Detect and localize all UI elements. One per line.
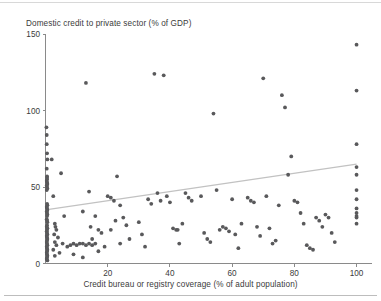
data-point <box>81 210 85 214</box>
data-point <box>355 207 359 211</box>
trend-line <box>46 164 357 210</box>
data-point <box>208 240 212 244</box>
data-point <box>72 252 76 256</box>
data-point <box>333 240 337 244</box>
data-point <box>54 228 58 232</box>
data-point <box>355 216 359 220</box>
data-point <box>89 225 93 229</box>
data-point <box>274 239 278 243</box>
scatter-plot-figure: Domestic credit to private sector (% of … <box>0 0 381 301</box>
y-tick-label: 150 <box>10 30 40 39</box>
data-point <box>218 228 222 232</box>
x-tick-label: 100 <box>350 269 364 278</box>
data-point <box>324 213 328 217</box>
data-point <box>118 242 122 246</box>
data-point <box>100 231 104 235</box>
data-point <box>165 194 169 198</box>
data-point <box>355 197 359 201</box>
data-point <box>96 228 100 232</box>
data-point <box>121 216 125 220</box>
data-point <box>45 133 49 137</box>
x-tick-label: 40 <box>165 269 174 278</box>
data-point <box>124 223 128 227</box>
data-point <box>109 228 113 232</box>
data-point <box>140 233 144 237</box>
data-point <box>236 246 240 250</box>
data-point <box>45 142 49 146</box>
data-point <box>261 76 265 80</box>
data-point <box>149 202 153 206</box>
data-point <box>230 197 234 201</box>
data-point <box>302 222 306 226</box>
data-point <box>296 200 300 204</box>
data-point <box>176 228 180 232</box>
x-tick-label: 20 <box>103 269 112 278</box>
data-point <box>286 173 290 177</box>
data-point <box>152 72 156 76</box>
data-point <box>45 188 49 192</box>
data-point <box>128 237 132 241</box>
data-point <box>62 214 66 218</box>
data-point <box>283 106 287 110</box>
data-point <box>54 243 58 247</box>
data-point <box>115 174 119 178</box>
data-point <box>45 259 49 263</box>
data-point <box>227 229 231 233</box>
y-tick-label: 100 <box>10 106 40 115</box>
data-point <box>355 188 359 192</box>
data-point <box>45 167 49 171</box>
data-point <box>84 81 88 85</box>
data-point <box>45 125 49 129</box>
data-point <box>93 242 97 246</box>
data-point <box>327 216 331 220</box>
y-tick-label: 0 <box>10 259 40 268</box>
data-point <box>271 242 275 246</box>
data-point <box>215 188 219 192</box>
data-point <box>112 199 116 203</box>
data-point <box>109 196 113 200</box>
data-point <box>264 194 268 198</box>
bottom-divider <box>4 295 377 296</box>
data-point <box>45 151 49 155</box>
data-point <box>330 231 334 235</box>
data-point <box>103 245 107 249</box>
data-point <box>299 211 303 215</box>
data-point <box>177 242 181 246</box>
data-point <box>280 93 284 97</box>
data-point <box>96 249 100 253</box>
data-point <box>355 165 359 169</box>
data-point <box>305 243 309 247</box>
data-point <box>355 173 359 177</box>
data-point <box>268 226 272 230</box>
data-point <box>156 191 160 195</box>
data-point <box>199 194 203 198</box>
data-point <box>81 255 85 259</box>
x-tick-label: 80 <box>290 269 299 278</box>
data-point <box>53 254 57 258</box>
data-point <box>252 200 256 204</box>
data-point <box>246 196 250 200</box>
plot-canvas <box>0 0 381 301</box>
data-point <box>50 158 54 162</box>
data-point <box>202 231 206 235</box>
data-point <box>320 225 324 229</box>
data-point <box>258 234 262 238</box>
data-point <box>118 203 122 207</box>
data-point <box>355 89 359 93</box>
data-point <box>51 248 55 252</box>
data-point <box>317 219 321 223</box>
data-point <box>159 199 163 203</box>
data-point <box>187 196 191 200</box>
data-point <box>190 199 194 203</box>
data-point <box>137 220 141 224</box>
data-point <box>146 197 150 201</box>
data-point <box>355 222 359 226</box>
data-point <box>277 203 281 207</box>
x-axis-title: Credit bureau or registry coverage (% of… <box>0 280 381 289</box>
data-point <box>240 222 244 226</box>
data-point <box>355 142 359 146</box>
trend-line-layer <box>46 164 357 210</box>
data-point <box>90 237 94 241</box>
data-point <box>51 194 55 198</box>
data-point <box>45 158 49 162</box>
